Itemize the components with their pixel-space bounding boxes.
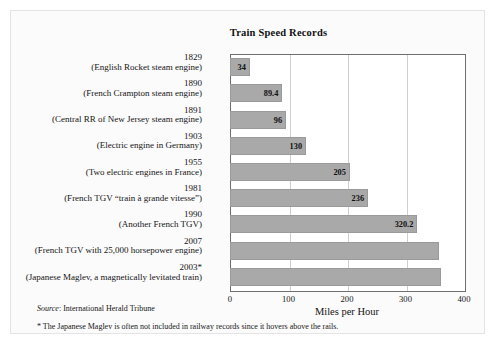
- category-label: 1990(Another French TGV): [0, 210, 202, 229]
- bar-row: [230, 268, 464, 286]
- bar-1955[interactable]: [230, 163, 350, 181]
- category-label: 1891(Central RR of New Jersey steam engi…: [0, 106, 202, 125]
- bar-value-label: 34: [238, 63, 246, 72]
- category-description: (French TGV “train à grande vitesse”): [0, 194, 202, 204]
- bar-row: 236: [230, 189, 464, 207]
- category-label: 1903(Electric engine in Germany): [0, 132, 202, 151]
- category-label: 1955(Two electric engines in France): [0, 158, 202, 177]
- bar-row: 89.4: [230, 84, 464, 102]
- bar-row: 130: [230, 137, 464, 155]
- bar-2007[interactable]: [230, 242, 439, 260]
- bar-value-label: 96: [274, 115, 282, 124]
- source-label: Source: [37, 304, 59, 313]
- x-tick-label-400: 400: [444, 294, 484, 304]
- footnote: * The Japanese Maglev is often not inclu…: [37, 322, 338, 331]
- category-label: 2003*(Japanese Maglev, a magnetically le…: [0, 263, 202, 282]
- bar-value-label: 320.2: [395, 220, 414, 229]
- x-tick-label-300: 300: [386, 294, 426, 304]
- x-axis-label: Miles per Hour: [230, 306, 464, 317]
- bar-row: 96: [230, 111, 464, 129]
- category-description: (French TGV with 25,000 horsepower engin…: [0, 246, 202, 256]
- bar-value-label: 89.4: [264, 89, 279, 98]
- category-description: (Central RR of New Jersey steam engine): [0, 115, 202, 125]
- category-label: 1829(English Rocket steam engine): [0, 53, 202, 72]
- category-label: 2007(French TGV with 25,000 horsepower e…: [0, 237, 202, 256]
- category-description: (Another French TGV): [0, 220, 202, 230]
- bar-value-label: 130: [290, 141, 302, 150]
- bar-1990[interactable]: [230, 215, 417, 233]
- x-tick-label-200: 200: [327, 294, 367, 304]
- source-note: Source: International Herald Tribune: [37, 304, 155, 313]
- bar-row: [230, 242, 464, 260]
- source-value: International Herald Tribune: [63, 304, 155, 313]
- bar-row: 205: [230, 163, 464, 181]
- bar-1981[interactable]: [230, 189, 368, 207]
- category-description: (Electric engine in Germany): [0, 141, 202, 151]
- category-label: 1981(French TGV “train à grande vitesse”…: [0, 184, 202, 203]
- bar-value-label: 205: [333, 168, 345, 177]
- bar-value-label: 236: [352, 194, 364, 203]
- category-label: 1890(French Crampton steam engine): [0, 79, 202, 98]
- chart-page: Train Speed Records 341829(English Rocke…: [0, 0, 497, 346]
- chart-card: Train Speed Records 341829(English Rocke…: [10, 10, 485, 334]
- page-title: Train Speed Records: [11, 27, 486, 38]
- bar-row: 320.2: [230, 215, 464, 233]
- bar-row: 34: [230, 58, 464, 76]
- category-description: (Japanese Maglev, a magnetically levitat…: [0, 273, 202, 283]
- category-description: (French Crampton steam engine): [0, 89, 202, 99]
- x-tick-label-0: 0: [210, 294, 250, 304]
- category-description: (English Rocket steam engine): [0, 63, 202, 73]
- category-description: (Two electric engines in France): [0, 168, 202, 178]
- bar-2003-star[interactable]: [230, 268, 441, 286]
- x-tick-label-100: 100: [269, 294, 309, 304]
